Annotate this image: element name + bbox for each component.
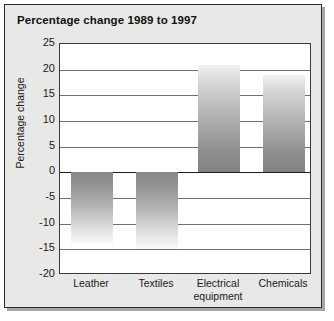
x-axis-tick-labels: Leather Textiles Electrical equipment Ch…: [59, 277, 311, 307]
x-label-leather-line1: Leather: [54, 277, 128, 290]
y-tick-25: 25: [9, 36, 55, 48]
y-tick-5: 5: [9, 139, 55, 151]
x-label-chemicals: Chemicals: [246, 277, 320, 290]
y-tick-20: 20: [9, 62, 55, 74]
gridline-neg15: [60, 249, 310, 250]
bar-textiles: [136, 172, 178, 249]
x-label-chemicals-line1: Chemicals: [246, 277, 320, 290]
x-label-electrical-line1: Electrical: [181, 277, 255, 290]
y-tick-0: 0: [9, 164, 55, 176]
x-label-leather: Leather: [54, 277, 128, 290]
chart-title: Percentage change 1989 to 1997: [17, 14, 197, 26]
y-tick-neg5: -5: [9, 190, 55, 202]
y-tick-neg10: -10: [9, 216, 55, 228]
y-tick-neg15: -15: [9, 241, 55, 253]
x-label-electrical-line2: equipment: [181, 290, 255, 303]
y-tick-15: 15: [9, 87, 55, 99]
gridline-20: [60, 70, 310, 71]
y-tick-10: 10: [9, 113, 55, 125]
bar-electrical-equipment: [198, 65, 240, 173]
y-axis-tick-labels: 25 20 15 10 5 0 -5 -10 -15 -20: [5, 43, 55, 274]
chart-figure: Percentage change 1989 to 1997 Percentag…: [4, 4, 322, 308]
bar-leather: [71, 172, 113, 244]
bar-chemicals: [263, 75, 305, 173]
x-label-electrical-equipment: Electrical equipment: [181, 277, 255, 303]
plot-area: [59, 43, 311, 274]
y-tick-neg20: -20: [9, 267, 55, 279]
